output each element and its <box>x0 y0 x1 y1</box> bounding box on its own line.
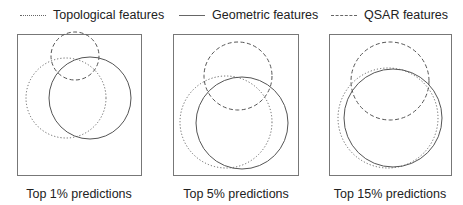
panel-frame <box>330 35 452 176</box>
venn-panel-3 <box>330 35 452 176</box>
topological-circle <box>180 76 272 168</box>
panel-frame <box>18 35 142 176</box>
qsar-circle <box>204 42 272 110</box>
venn-panel-2 <box>174 35 299 176</box>
panel-label-top15: Top 15% predictions <box>320 187 460 201</box>
venn-diagrams <box>0 0 463 205</box>
qsar-circle <box>351 42 429 120</box>
geometric-circle <box>344 69 442 167</box>
geometric-circle <box>49 57 131 139</box>
panel-frame <box>174 35 299 176</box>
panel-label-top1: Top 1% predictions <box>9 187 149 201</box>
panel-label-top5: Top 5% predictions <box>166 187 306 201</box>
geometric-circle <box>196 77 288 169</box>
topological-circle <box>338 68 438 168</box>
venn-panel-1 <box>18 32 142 176</box>
